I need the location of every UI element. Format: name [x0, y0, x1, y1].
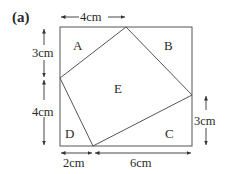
left-lower-measure: 4cm [32, 105, 54, 119]
region-c-label: C [165, 126, 174, 141]
region-a-label: A [73, 38, 83, 53]
figure-label: (a) [12, 9, 30, 26]
bottom-right-measure: 6cm [130, 156, 152, 170]
left-upper-measure: 3cm [32, 46, 54, 60]
region-b-label: B [164, 38, 173, 53]
pythagoras-diagram: (a) A B E D C 4cm 3cm 4cm 3cm 2cm 6cm [0, 0, 229, 174]
region-e-label: E [114, 81, 122, 96]
right-measure: 3cm [194, 114, 216, 128]
bottom-left-measure: 2cm [63, 156, 85, 170]
region-d-label: D [65, 126, 74, 141]
top-measure: 4cm [80, 10, 102, 24]
